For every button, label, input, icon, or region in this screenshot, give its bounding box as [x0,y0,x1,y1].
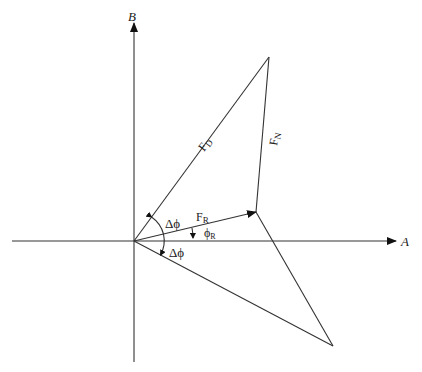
normal-force-line [256,57,269,212]
horizontal-axis-label: A [400,234,409,249]
normal-force-label: FN [266,131,283,147]
upper-delta-angle-arc [152,217,164,234]
lower-delta-angle-arc [161,234,165,255]
resultant-angle-arc [192,228,193,238]
resultant-force-label: FR [196,210,209,225]
svg-text:FD: FD [195,134,215,154]
vertical-axis-label: B [128,9,136,24]
drag-force-label: FD [195,134,215,154]
resultant-angle-label: ϕR [204,226,216,241]
force-diagram: A B FD FN FR Δϕ Δϕ ϕR [0,0,422,372]
lower-delta-angle-label: Δϕ [169,245,184,260]
svg-text:FN: FN [266,131,283,147]
upper-delta-angle-label: Δϕ [165,216,180,231]
